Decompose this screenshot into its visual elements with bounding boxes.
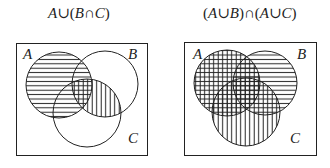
label-c-right: C [290, 130, 301, 146]
venn-right: A B C [185, 43, 317, 156]
venn-diagrams: A B C A B C [0, 0, 330, 168]
label-a-left: A [22, 46, 33, 62]
label-c-left: C [128, 130, 139, 146]
venn-left: A B C [17, 44, 148, 156]
label-b-right: B [297, 46, 306, 62]
label-b-left: B [128, 46, 137, 62]
label-a-right: A [192, 46, 203, 62]
